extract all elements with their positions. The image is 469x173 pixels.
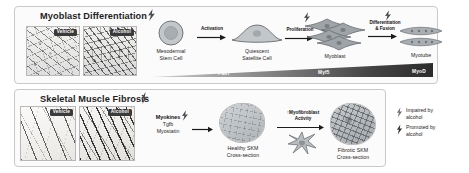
arrow-myofibroblast-icon [277,124,325,131]
gradient-wedge [152,63,433,77]
tf-marker-myod: MyoD [412,69,426,74]
legend-item-promoted: Promoted by alcohol [396,124,468,137]
stage-label-quiescent-satellite-cell: Quiescent Satellite Cell [232,48,282,62]
micrograph-fibrosis-alcohol: Alcohol [79,106,135,161]
micrograph-label-alcohol: Alcohol [108,109,132,116]
micrograph-myoblast-alcohol: Alcohol [83,26,137,76]
micrograph-label-vehicle: Vehicle [50,109,73,116]
stage-label-myotube: Myotube [397,52,445,59]
myotube-shape [399,26,443,50]
quiescent-satellite-cell-shape [231,22,283,44]
tf-marker-myf5: Myf5 [318,70,330,75]
caption-fibrotic-skm-cross-section: Fibrotic SKM Cross-section [327,147,379,161]
factor-tgfb: Tgfb [146,121,190,128]
stage-label-mesodermal-stem-cell: Mesodermal Stem Cell [146,48,196,62]
lightning-bolt-icon [384,10,392,21]
transition-label-activation: Activation [192,26,232,32]
micrograph-myoblast-vehicle: Vehicle [26,26,80,76]
cross-section-texture [220,104,264,142]
stage-label-myoblast: Myoblast [310,53,360,60]
lightning-bolt-icon [140,92,149,104]
myofibroblast-cell-shape [286,131,318,155]
cross-section-texture [331,104,375,144]
lightning-bolt-icon [181,110,189,121]
lightning-bolt-icon [303,12,311,23]
myoblast-cluster-shape [312,19,358,51]
activity-label-myofibroblast: ↑Myofibroblast Activity [278,110,328,122]
panel-title-myoblast-differentiation: Myoblast Differentiation [40,11,147,21]
caption-healthy-skm-cross-section: Healthy SKM Cross-section [217,145,269,159]
arrow-differentiation-fusion-icon [368,33,398,40]
micrograph-label-alcohol: Alcohol [110,29,134,36]
panel-title-skeletal-muscle-fibrosis: Skeletal Muscle Fibrosis [40,94,149,104]
arrow-myokines-icon [192,126,214,133]
arrow-activation-icon [197,34,227,41]
legend-item-impaired: Impaired by alcohol [396,107,468,120]
cross-section-fibrotic-skm [330,103,376,145]
micrograph-label-vehicle: Vehicle [54,29,77,36]
legend-label-impaired: Impaired by alcohol [406,107,433,120]
tf-marker-pax7: Pax7 [218,71,230,76]
arrow-proliferation-icon [285,35,314,42]
factor-myostatin: Myostatin [146,128,190,135]
lightning-bolt-icon [147,9,156,21]
figure-canvas: Myoblast Differentiation Vehicle Alcohol… [0,0,469,173]
lightning-bolt-impaired-icon [396,107,403,118]
micrograph-fibrosis-vehicle: Vehicle [20,106,76,161]
lightning-bolt-promoted-icon [396,124,403,135]
legend: Impaired by alcohol Promoted by alcohol [396,107,468,141]
cross-section-healthy-skm [219,103,265,143]
mesodermal-stem-cell-shape [158,20,184,46]
legend-label-promoted: Promoted by alcohol [406,124,435,137]
transcription-factor-gradient-bar [152,63,433,77]
